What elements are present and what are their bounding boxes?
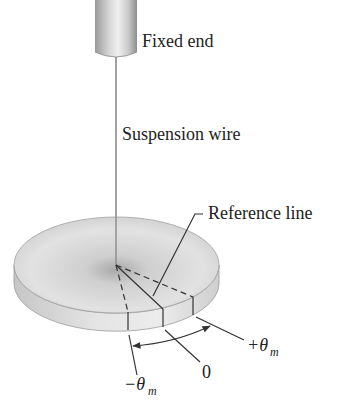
minus-theta-subscript: m bbox=[148, 384, 157, 398]
reference-line-label: Reference line bbox=[208, 203, 312, 223]
suspension-wire-label: Suspension wire bbox=[122, 124, 241, 144]
fixed-end-label: Fixed end bbox=[142, 31, 214, 51]
torsion-pendulum-diagram: Fixed end Suspension wire Reference line… bbox=[0, 0, 355, 407]
disk bbox=[14, 217, 219, 331]
zero-label: 0 bbox=[202, 362, 211, 382]
plus-theta-subscript: m bbox=[270, 345, 279, 359]
plus-theta-label: +θ bbox=[247, 335, 268, 355]
minus-theta-label: −θ bbox=[124, 374, 145, 394]
fixed-end-support bbox=[95, 0, 137, 57]
